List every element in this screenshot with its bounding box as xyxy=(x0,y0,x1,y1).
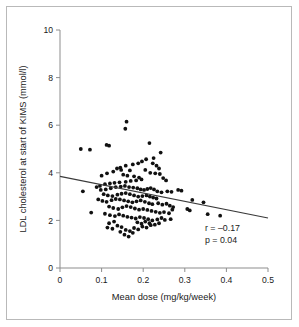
data-point xyxy=(124,180,128,184)
data-point xyxy=(123,127,127,131)
data-point xyxy=(125,204,129,208)
data-point xyxy=(106,226,110,230)
data-point xyxy=(155,189,159,193)
data-point xyxy=(151,161,155,165)
data-point xyxy=(140,222,144,226)
data-point xyxy=(118,180,122,184)
data-point xyxy=(157,221,161,225)
data-point xyxy=(108,213,112,217)
data-point xyxy=(88,148,92,152)
data-point xyxy=(101,199,105,203)
data-point xyxy=(145,187,149,191)
data-point xyxy=(155,164,159,168)
y-tick-label: 0 xyxy=(48,263,53,273)
data-point xyxy=(132,174,136,178)
y-tick-label: 10 xyxy=(43,25,53,35)
data-point xyxy=(130,200,134,204)
data-point xyxy=(131,231,135,235)
data-point xyxy=(152,188,156,192)
data-point xyxy=(111,227,115,231)
data-point xyxy=(111,194,115,198)
data-point xyxy=(131,186,135,190)
data-point xyxy=(156,201,160,205)
data-point xyxy=(145,208,149,212)
data-point xyxy=(100,174,104,178)
data-point xyxy=(158,172,162,176)
data-point xyxy=(107,221,111,225)
data-point xyxy=(113,214,117,218)
data-point xyxy=(79,147,83,151)
data-points-group xyxy=(79,120,222,239)
data-point xyxy=(136,228,140,232)
data-point xyxy=(190,198,194,202)
data-point xyxy=(218,214,222,218)
x-tick-label: 0.4 xyxy=(220,275,232,285)
data-point xyxy=(132,194,136,198)
data-point xyxy=(81,189,85,193)
data-point xyxy=(129,179,133,183)
pvalue-annotation: p = 0.04 xyxy=(205,235,237,245)
y-tick-label: 4 xyxy=(48,168,53,178)
data-point xyxy=(107,205,111,209)
correlation-annotation: r = –0.17 xyxy=(205,223,240,233)
figure-container: 024681000.10.20.30.40.5 Mean dose (mg/kg… xyxy=(0,0,299,327)
data-point xyxy=(125,215,129,219)
data-point xyxy=(180,189,184,193)
data-point xyxy=(135,220,139,224)
data-point xyxy=(159,151,163,155)
data-point xyxy=(124,191,128,195)
data-point xyxy=(153,223,157,227)
data-point xyxy=(113,181,117,185)
data-point xyxy=(149,186,153,190)
data-point xyxy=(169,217,173,221)
data-point xyxy=(107,144,111,148)
data-point xyxy=(117,213,121,217)
data-point xyxy=(99,188,103,192)
data-point xyxy=(121,173,125,177)
data-point xyxy=(104,188,108,192)
data-point xyxy=(145,226,149,230)
data-point xyxy=(158,211,162,215)
data-point xyxy=(139,188,143,192)
data-point xyxy=(150,209,154,213)
data-point xyxy=(176,188,180,192)
data-point xyxy=(114,197,118,201)
data-point xyxy=(102,192,106,196)
data-point xyxy=(129,205,133,209)
data-point xyxy=(136,161,140,165)
data-point xyxy=(150,202,154,206)
data-point xyxy=(148,141,152,145)
data-point xyxy=(118,230,122,234)
data-point xyxy=(148,195,152,199)
data-point xyxy=(143,200,147,204)
x-axis-title: Mean dose (mg/kg/week) xyxy=(112,292,216,302)
data-point xyxy=(136,195,140,199)
data-point xyxy=(140,159,144,163)
data-point xyxy=(164,179,168,183)
x-tick-label: 0.1 xyxy=(96,275,108,285)
scatter-plot: 024681000.10.20.30.40.5 Mean dose (mg/kg… xyxy=(0,0,299,327)
data-point xyxy=(157,167,161,171)
data-point xyxy=(160,203,164,207)
tick-labels-group: 024681000.10.20.30.40.5 xyxy=(43,25,274,285)
data-point xyxy=(120,192,124,196)
data-point xyxy=(160,190,164,194)
data-point xyxy=(144,157,148,161)
data-point xyxy=(105,171,109,175)
data-point xyxy=(125,174,129,178)
data-point xyxy=(131,163,135,167)
data-point xyxy=(202,200,206,204)
data-point xyxy=(151,196,155,200)
data-point xyxy=(162,210,166,214)
data-point xyxy=(142,216,146,220)
data-point xyxy=(126,199,130,203)
data-point xyxy=(108,182,112,186)
x-tick-label: 0.3 xyxy=(179,275,191,285)
data-point xyxy=(121,214,125,218)
data-point xyxy=(106,194,110,198)
data-point xyxy=(141,207,145,211)
data-point xyxy=(105,200,109,204)
data-point xyxy=(127,235,131,239)
data-point xyxy=(133,207,137,211)
data-point xyxy=(154,210,158,214)
